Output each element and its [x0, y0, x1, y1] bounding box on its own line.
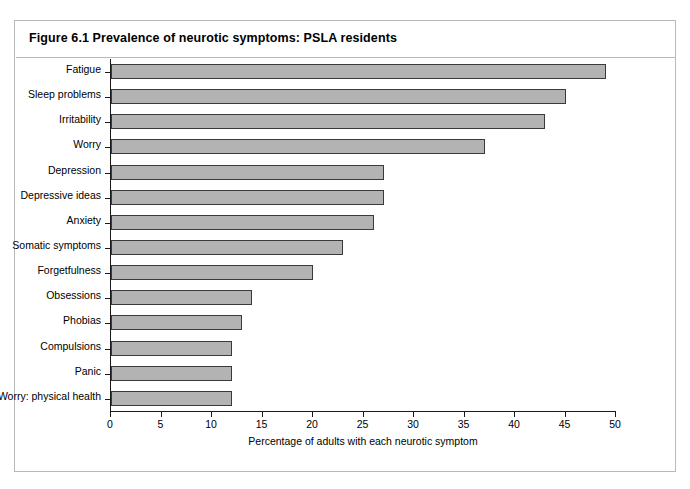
y-axis-tick — [105, 198, 110, 199]
category-label: Phobias — [63, 314, 101, 326]
x-axis-tick — [464, 412, 465, 417]
y-axis-tick — [105, 323, 110, 324]
bar — [111, 240, 343, 255]
category-label: Obsessions — [46, 289, 101, 301]
x-axis-tick-label: 30 — [407, 418, 419, 430]
category-label: Somatic symptoms — [12, 239, 101, 251]
bar — [111, 290, 252, 305]
bar-row: Anxiety — [110, 210, 615, 235]
x-axis-tick — [565, 412, 566, 417]
bar — [111, 165, 384, 180]
x-axis-tick-label: 20 — [306, 418, 318, 430]
x-axis-tick-label: 35 — [458, 418, 470, 430]
bar — [111, 190, 384, 205]
bar-row: Obsessions — [110, 285, 615, 310]
category-label: Fatigue — [66, 63, 101, 75]
title-divider — [16, 57, 676, 58]
x-axis-tick — [514, 412, 515, 417]
bar — [111, 341, 232, 356]
x-axis-tick-label: 50 — [609, 418, 621, 430]
x-axis-tick — [211, 412, 212, 417]
bar-row: Irritability — [110, 109, 615, 134]
y-axis-tick — [105, 122, 110, 123]
bar-row: Worry: physical health — [110, 386, 615, 411]
bar-row: Depression — [110, 160, 615, 185]
figure-title: Figure 6.1 Prevalence of neurotic sympto… — [29, 31, 397, 45]
x-axis-tick-label: 15 — [256, 418, 268, 430]
x-axis-tick — [615, 412, 616, 417]
category-label: Worry — [73, 138, 101, 150]
bar-row: Phobias — [110, 310, 615, 335]
y-axis-tick — [105, 349, 110, 350]
x-axis-tick-label: 25 — [357, 418, 369, 430]
category-label: Worry: physical health — [0, 390, 101, 402]
bar-row: Fatigue — [110, 59, 615, 84]
x-axis-tick-label: 0 — [107, 418, 113, 430]
y-axis-tick — [105, 248, 110, 249]
y-axis-tick — [105, 399, 110, 400]
x-axis-tick — [413, 412, 414, 417]
y-axis-tick — [105, 173, 110, 174]
bar — [111, 215, 374, 230]
bar-row: Compulsions — [110, 336, 615, 361]
bar — [111, 64, 606, 79]
category-label: Sleep problems — [28, 88, 101, 100]
bar — [111, 89, 566, 104]
bar-row: Panic — [110, 361, 615, 386]
y-axis-tick — [105, 72, 110, 73]
x-axis-tick — [312, 412, 313, 417]
y-axis-tick — [105, 298, 110, 299]
bar-row: Somatic symptoms — [110, 235, 615, 260]
y-axis-tick — [105, 223, 110, 224]
y-axis-tick — [105, 97, 110, 98]
category-label: Irritability — [59, 113, 101, 125]
x-axis-tick — [161, 412, 162, 417]
bar — [111, 391, 232, 406]
x-axis-tick — [262, 412, 263, 417]
category-label: Depressive ideas — [20, 189, 101, 201]
x-axis-tick — [363, 412, 364, 417]
bar-row: Sleep problems — [110, 84, 615, 109]
x-axis-tick-label: 45 — [559, 418, 571, 430]
x-axis-tick-label: 10 — [205, 418, 217, 430]
bar-row: Worry — [110, 134, 615, 159]
bar — [111, 315, 242, 330]
x-axis-title: Percentage of adults with each neurotic … — [110, 435, 616, 447]
bar — [111, 265, 313, 280]
category-label: Compulsions — [40, 340, 101, 352]
bar — [111, 139, 485, 154]
bar — [111, 366, 232, 381]
figure-panel: Figure 6.1 Prevalence of neurotic sympto… — [14, 20, 676, 472]
bar-row: Depressive ideas — [110, 185, 615, 210]
category-label: Depression — [48, 164, 101, 176]
category-label: Panic — [75, 365, 101, 377]
category-label: Anxiety — [67, 214, 101, 226]
bar-row: Forgetfulness — [110, 260, 615, 285]
bar-chart-plot-area: FatigueSleep problemsIrritabilityWorryDe… — [110, 59, 615, 411]
y-axis-tick — [105, 273, 110, 274]
x-axis-tick-label: 40 — [508, 418, 520, 430]
y-axis-tick — [105, 374, 110, 375]
y-axis-tick — [105, 147, 110, 148]
x-axis-tick — [110, 412, 111, 417]
x-axis-tick-label: 5 — [158, 418, 164, 430]
bar — [111, 114, 545, 129]
category-label: Forgetfulness — [37, 264, 101, 276]
